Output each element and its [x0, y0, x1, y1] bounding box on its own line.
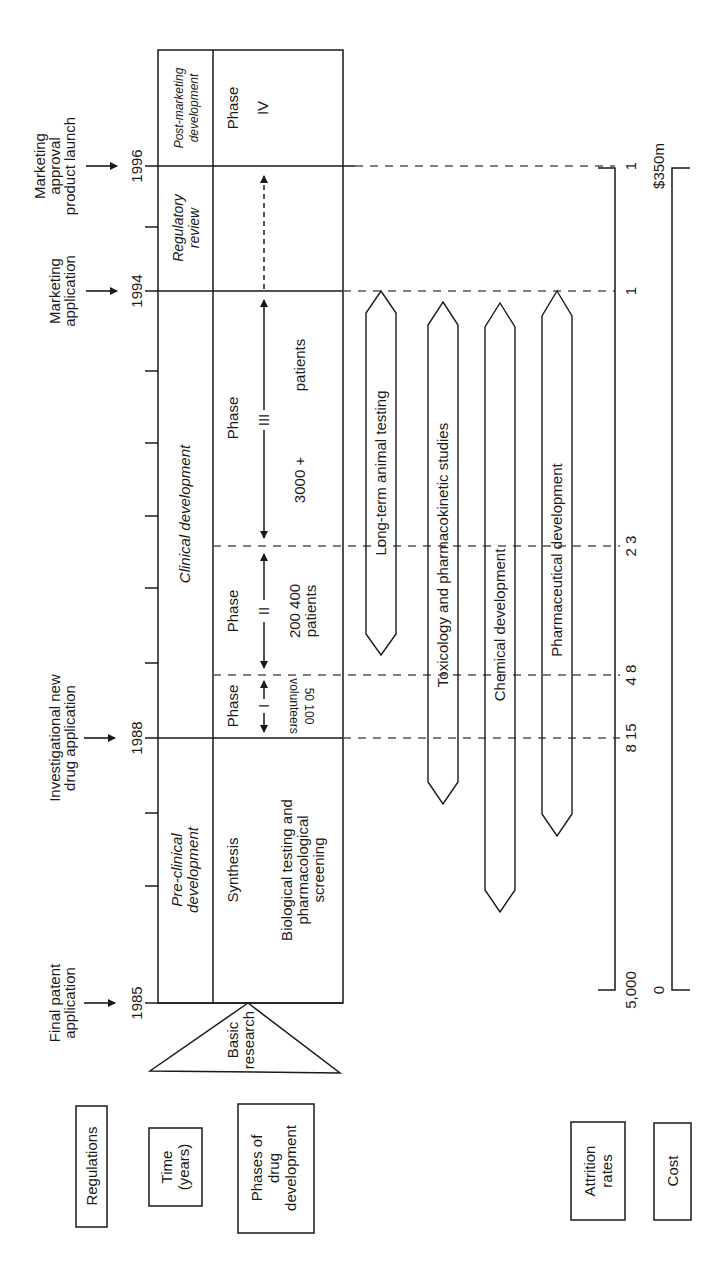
attrition-phase-i: 4 8 [622, 665, 639, 686]
phase-ii-subjects: 200 400 [286, 584, 303, 638]
regulation-arrows [84, 166, 117, 1003]
screening-line1: Biological testing and [278, 799, 295, 941]
attrition-scale: 1 1 2 3 4 8 8 15 5,000 [598, 162, 639, 1009]
year-1988: 1988 [128, 721, 145, 754]
phase-i-subjects: 50 100 [302, 688, 316, 725]
phase-i-numeral: I [255, 704, 272, 708]
long-term-animal-testing-label: Long-term animal testing [372, 390, 389, 555]
regulation-events: Marketing approval product launch Market… [31, 117, 78, 1042]
basic-research-triangle: Basic research [150, 1003, 340, 1073]
year-1996: 1996 [128, 149, 145, 182]
phase-ii-word: Phase [224, 590, 241, 633]
time-label-2: (years) [175, 1144, 192, 1191]
attrition-1996: 1 [622, 162, 639, 170]
phase-iv-word: Phase [224, 87, 241, 130]
postmarketing-title-2: development [187, 73, 201, 142]
year-1994: 1994 [128, 274, 145, 307]
drug-development-diagram: 1996 1994 1988 1985 Marketing approval p… [0, 0, 713, 1273]
regulatory-title-1: Regulatory [170, 193, 186, 262]
cost-scale: $350m 0 [650, 143, 690, 994]
attrition-start: 5,000 [622, 971, 639, 1009]
phase-ii-unit: patients [302, 585, 319, 638]
phase-iii-subjects: 3000 + [291, 457, 308, 504]
time-axis: 1996 1994 1988 1985 [128, 149, 145, 1019]
attrition-1994: 1 [622, 287, 639, 295]
regulatory-title-2: review [186, 207, 202, 248]
basic-research-line1: Basic [224, 1021, 241, 1058]
phases-label-1: Phases of [248, 1134, 265, 1202]
year-1985: 1985 [128, 986, 145, 1019]
preclinical-title-2: development [184, 826, 201, 913]
chemical-development-label: Chemical development [491, 548, 508, 701]
screening-line2: pharmacological [294, 815, 311, 924]
phase-titles: Post-marketing development Regulatory re… [168, 67, 202, 913]
phase-details: Phase IV Phase III 3000 + patients Phase… [224, 87, 327, 941]
phase-i-unit: volunteers [287, 678, 301, 733]
cost-label: Cost [664, 1155, 681, 1187]
cost-end: $350m [650, 143, 667, 189]
pharmaceutical-development-label: Pharmaceutical development [548, 462, 565, 656]
basic-research-line2: research [240, 1011, 257, 1069]
attrition-label-1: Attrition [581, 1146, 598, 1197]
row-label-texts: Regulations Time (years) Phases of drug … [83, 1124, 681, 1211]
clinical-title: Clinical development [176, 444, 193, 583]
phase-ii-numeral: II [255, 607, 272, 615]
phases-label-3: development [282, 1124, 299, 1211]
attrition-label-2: rates [598, 1154, 615, 1187]
toxicology-label: Toxicology and pharmacokinetic studies [434, 423, 451, 687]
regulations-label: Regulations [83, 1126, 100, 1205]
event-1985-line2: application [61, 967, 78, 1039]
phase-iii-word: Phase [224, 397, 241, 440]
screening-line3: screening [310, 837, 327, 902]
phase-i-word: Phase [224, 685, 241, 728]
phase-iii-unit: patients [291, 339, 308, 392]
event-1988-line2: drug application [61, 685, 78, 791]
parallel-activities [366, 291, 572, 912]
preclinical-title-1: Pre-clinical [168, 833, 185, 907]
postmarketing-title-1: Post-marketing [172, 67, 186, 148]
cost-start: 0 [650, 986, 667, 994]
phases-label-2: drug [265, 1153, 282, 1183]
attrition-1988: 8 15 [622, 723, 639, 752]
synthesis-label: Synthesis [224, 837, 241, 902]
phase-iv-numeral: IV [254, 101, 271, 115]
phase-iii-numeral: III [255, 414, 272, 427]
time-label-1: Time [158, 1151, 175, 1184]
event-1996-line3: product launch [61, 117, 78, 215]
event-1994-line2: application [61, 255, 78, 327]
attrition-phase-ii: 2 3 [622, 536, 639, 557]
